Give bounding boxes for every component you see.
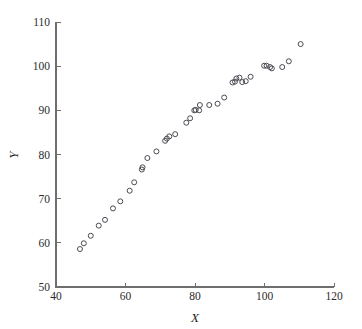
x-tick-label-120: 120 (325, 290, 343, 302)
y-tick-label-90: 90 (39, 104, 51, 116)
data-point (298, 42, 303, 47)
scatter-plot-figure: 4060801001205060708090100110 X Y (0, 0, 362, 329)
data-point (248, 74, 253, 79)
data-point (96, 223, 101, 228)
x-axis-title: X (190, 310, 200, 325)
x-tick-label-40: 40 (50, 290, 62, 302)
data-point (243, 79, 248, 84)
y-tick-label-100: 100 (33, 60, 51, 72)
data-point (286, 59, 291, 64)
data-point (77, 247, 82, 252)
y-tick-label-70: 70 (39, 193, 51, 205)
x-tick-label-100: 100 (256, 290, 274, 302)
data-point (103, 217, 108, 222)
data-point (215, 101, 220, 106)
data-point (132, 180, 137, 185)
data-point (222, 95, 227, 100)
data-point (207, 103, 212, 108)
data-point (118, 199, 123, 204)
data-point (81, 241, 86, 246)
plot-canvas: 4060801001205060708090100110 X Y (0, 0, 362, 329)
y-tick-label-80: 80 (39, 149, 51, 161)
data-point (240, 80, 245, 85)
y-tick-label-110: 110 (33, 16, 50, 28)
data-point (145, 156, 150, 161)
tick-labels: 4060801001205060708090100110 (33, 16, 343, 302)
data-point (280, 65, 285, 70)
axes (56, 22, 334, 287)
y-axis-title: Y (6, 150, 21, 159)
x-tick-label-60: 60 (120, 290, 132, 302)
data-point (197, 103, 202, 108)
x-tick-label-80: 80 (189, 290, 201, 302)
data-point (173, 132, 178, 137)
data-point (154, 149, 159, 154)
data-points (77, 42, 303, 252)
data-point (197, 108, 202, 113)
y-tick-label-60: 60 (39, 237, 51, 249)
data-point (184, 120, 189, 125)
tick-marks (56, 22, 334, 287)
data-point (188, 116, 193, 121)
data-point (110, 206, 115, 211)
data-point (127, 188, 132, 193)
axis-spines (56, 22, 334, 287)
data-point (88, 233, 93, 238)
y-tick-label-50: 50 (39, 281, 51, 293)
